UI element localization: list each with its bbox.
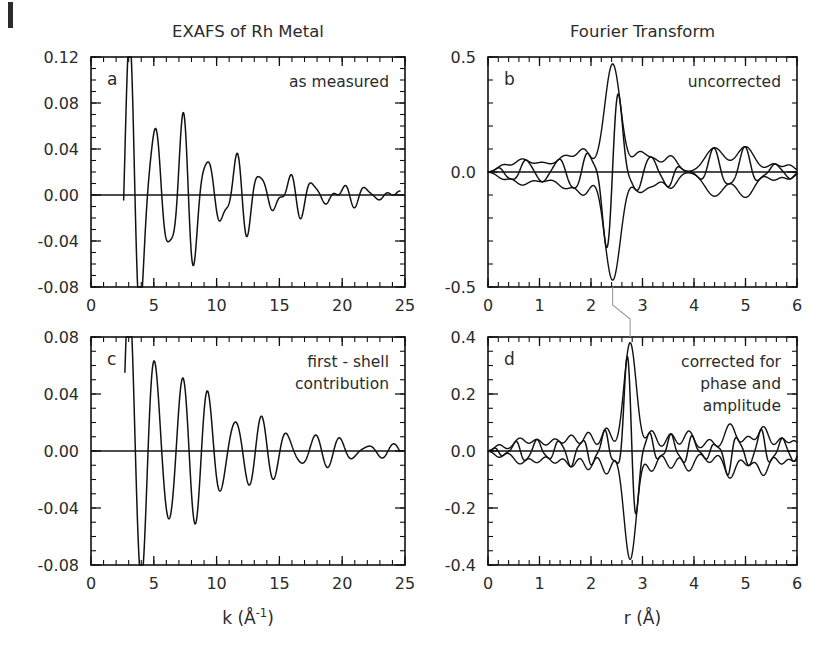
ytick-label-d-4: 0.4 (451, 328, 476, 347)
xtick-label-b-1: 1 (534, 296, 544, 315)
ytick-label-c-3: 0.04 (43, 385, 79, 404)
annotation-d-2: amplitude (703, 397, 781, 415)
xtick-label-c-2: 10 (206, 574, 226, 593)
curve-b-real-part (488, 94, 797, 247)
annotation-c-1: contribution (295, 375, 389, 393)
page-margin-mark (8, 2, 13, 28)
ytick-label-a-1: -0.04 (38, 232, 79, 251)
xtick-label-d-1: 1 (534, 574, 544, 593)
curve-a-chi (124, 57, 400, 287)
annotation-b-0: uncorrected (688, 73, 781, 91)
xtick-label-c-3: 15 (269, 574, 289, 593)
ytick-label-c-0: -0.08 (38, 556, 79, 575)
xtick-label-c-5: 25 (395, 574, 415, 593)
xtick-label-a-0: 0 (86, 296, 96, 315)
xtick-label-a-2: 10 (206, 296, 226, 315)
ytick-label-a-2: 0.00 (43, 186, 79, 205)
xtick-label-b-2: 2 (586, 296, 596, 315)
right-column-title: Fourier Transform (570, 22, 715, 41)
xtick-label-d-3: 3 (637, 574, 647, 593)
xtick-label-a-1: 5 (149, 296, 159, 315)
ytick-label-a-0: -0.08 (38, 278, 79, 297)
ytick-label-a-4: 0.08 (43, 94, 79, 113)
x-axis-label-k: k (Å-1) (222, 606, 274, 628)
xtick-label-d-0: 0 (483, 574, 493, 593)
ytick-label-a-3: 0.04 (43, 140, 79, 159)
annotation-c-0: first - shell (307, 353, 389, 371)
ytick-label-b-2: 0.5 (451, 48, 476, 67)
xtick-label-b-0: 0 (483, 296, 493, 315)
curve-b-magnitude-neg (488, 172, 797, 280)
xtick-label-c-1: 5 (149, 574, 159, 593)
curve-d-magnitude-neg (488, 451, 797, 559)
panel-letter-a: a (107, 69, 117, 89)
peak-correspondence-guide (613, 287, 631, 337)
ytick-label-d-0: -0.4 (445, 556, 476, 575)
panel-letter-b: b (504, 69, 515, 89)
ytick-label-d-1: -0.2 (445, 499, 476, 518)
annotation-d-1: phase and (700, 375, 781, 393)
ytick-label-c-1: -0.04 (38, 499, 79, 518)
xtick-label-a-4: 20 (332, 296, 352, 315)
xtick-label-b-5: 5 (740, 296, 750, 315)
ytick-label-b-1: 0.0 (451, 163, 476, 182)
ytick-label-d-2: 0.0 (451, 442, 476, 461)
xtick-label-d-4: 4 (689, 574, 699, 593)
xtick-label-d-2: 2 (586, 574, 596, 593)
xtick-label-b-4: 4 (689, 296, 699, 315)
ytick-label-b-0: -0.5 (445, 278, 476, 297)
exafs-figure-svg: EXAFS of Rh MetalFourier Transform051015… (0, 0, 834, 652)
xtick-label-d-5: 5 (740, 574, 750, 593)
figure-root: EXAFS of Rh MetalFourier Transform051015… (0, 0, 834, 652)
ytick-label-c-4: 0.08 (43, 328, 79, 347)
panel-letter-c: c (107, 349, 116, 369)
ytick-label-d-3: 0.2 (451, 385, 476, 404)
ytick-label-a-5: 0.12 (43, 48, 79, 67)
xtick-label-a-3: 15 (269, 296, 289, 315)
x-axis-label-r: r (Å) (624, 607, 661, 628)
ytick-label-c-2: 0.00 (43, 442, 79, 461)
xtick-label-b-3: 3 (637, 296, 647, 315)
xtick-label-d-6: 6 (792, 574, 802, 593)
xtick-label-a-5: 25 (395, 296, 415, 315)
panel-letter-d: d (504, 349, 515, 369)
xtick-label-b-6: 6 (792, 296, 802, 315)
xtick-label-c-4: 20 (332, 574, 352, 593)
left-column-title: EXAFS of Rh Metal (172, 22, 324, 41)
annotation-a-0: as measured (289, 73, 389, 91)
plot-frame-a (91, 57, 405, 287)
xtick-label-c-0: 0 (86, 574, 96, 593)
annotation-d-0: corrected for (681, 353, 782, 371)
